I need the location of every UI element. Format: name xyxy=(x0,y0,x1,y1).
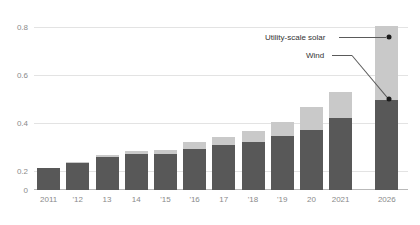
bar-segment-wind xyxy=(96,157,119,190)
y-tick-label-0.2: 0.2 xyxy=(17,166,28,175)
x-tick-label-17: 17 xyxy=(219,195,228,204)
x-tick-label-14: 14 xyxy=(132,195,141,204)
x-tick-label-12: '12 xyxy=(73,195,83,204)
x-tick-label-19: '19 xyxy=(277,195,287,204)
bar-segment-solar xyxy=(183,142,206,149)
bar-segment-wind xyxy=(242,142,265,190)
bar-segment-solar xyxy=(242,131,265,142)
bar-group: 2011'121314'15'1617'18'192020212026 xyxy=(34,17,408,190)
bar-segment-wind xyxy=(154,154,177,190)
bar-15[interactable] xyxy=(154,150,177,190)
bar-segment-solar xyxy=(329,92,352,118)
callout-dot-wind xyxy=(387,97,392,102)
y-tick-label-0.4: 0.4 xyxy=(17,118,28,127)
chart-root: 0.8 0.6 0.4 0.2 0 2011'121314'15'1617'18… xyxy=(0,0,420,225)
bar-12[interactable] xyxy=(66,162,89,190)
bar-segment-solar xyxy=(300,107,323,130)
bar-14[interactable] xyxy=(125,151,148,190)
x-tick-label-20: 20 xyxy=(307,195,316,204)
bar-segment-wind xyxy=(183,149,206,190)
x-tick-label-16: '16 xyxy=(189,195,199,204)
bar-2021[interactable] xyxy=(329,92,352,190)
annotation-label-solar: Utility-scale solar xyxy=(265,33,325,42)
bar-19[interactable] xyxy=(271,122,294,190)
bar-segment-wind xyxy=(125,154,148,190)
annotation-label-wind: Wind xyxy=(306,51,324,60)
y-tick-label-0.6: 0.6 xyxy=(17,70,28,79)
bar-segment-wind xyxy=(329,118,352,190)
x-tick-label-18: '18 xyxy=(248,195,258,204)
bar-20[interactable] xyxy=(300,107,323,190)
x-tick-label-13: 13 xyxy=(103,195,112,204)
bar-18[interactable] xyxy=(242,131,265,190)
leader-line-solar xyxy=(339,37,386,38)
x-tick-label-2021: 2021 xyxy=(332,195,350,204)
plot-area: 0.8 0.6 0.4 0.2 0 2011'121314'15'1617'18… xyxy=(34,17,408,190)
bar-16[interactable] xyxy=(183,142,206,190)
x-tick-label-2011: 2011 xyxy=(40,195,57,204)
bar-17[interactable] xyxy=(212,137,235,190)
x-tick-label-2026: 2026 xyxy=(378,195,396,204)
bar-segment-wind xyxy=(37,168,60,190)
bar-segment-wind xyxy=(212,145,235,190)
bar-segment-solar xyxy=(271,122,294,136)
bar-13[interactable] xyxy=(96,155,119,190)
y-tick-label-0.8: 0.8 xyxy=(17,22,28,31)
callout-dot-solar xyxy=(387,35,392,40)
bar-segment-wind xyxy=(271,136,294,190)
bar-segment-wind xyxy=(66,163,89,190)
leader-line-wind-horizontal xyxy=(332,55,352,56)
bar-segment-solar xyxy=(212,137,235,146)
y-tick-label-0: 0 xyxy=(24,186,28,195)
bar-2011[interactable] xyxy=(37,168,60,190)
x-tick-label-15: '15 xyxy=(160,195,170,204)
bar-segment-wind xyxy=(375,100,398,190)
bar-segment-wind xyxy=(300,130,323,190)
